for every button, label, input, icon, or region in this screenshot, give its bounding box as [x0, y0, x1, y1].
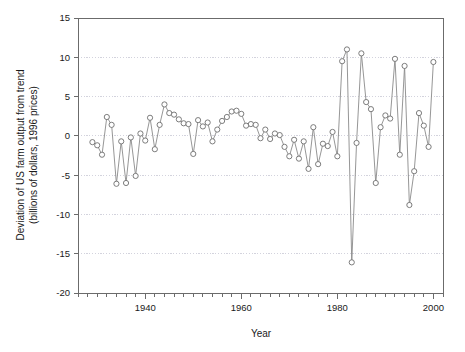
data-series — [90, 47, 436, 265]
data-point-1962 — [248, 121, 253, 126]
data-point-1985 — [359, 51, 364, 56]
data-point-1955 — [215, 127, 220, 132]
data-point-1990 — [383, 113, 388, 118]
data-point-1983 — [349, 260, 354, 265]
data-point-1957 — [224, 114, 229, 119]
data-point-1979 — [330, 129, 335, 134]
x-axis-ticks — [78, 293, 443, 299]
x-tick-label-1980: 1980 — [327, 302, 348, 313]
series-line — [92, 49, 433, 262]
y-tick-label--10: -10 — [56, 209, 70, 220]
y-tick-label-10: 10 — [59, 52, 70, 63]
data-point-1980 — [335, 154, 340, 159]
data-point-1972 — [296, 156, 301, 161]
data-point-1993 — [397, 152, 402, 157]
data-point-1997 — [416, 110, 421, 115]
data-point-1952 — [200, 124, 205, 129]
data-point-1929 — [90, 140, 95, 145]
data-point-1937 — [128, 135, 133, 140]
data-point-1951 — [195, 118, 200, 123]
data-point-1956 — [219, 118, 224, 123]
data-point-1988 — [373, 180, 378, 185]
data-point-1950 — [191, 151, 196, 156]
x-axis-tick-labels: 1940196019802000 — [135, 302, 444, 313]
data-point-1971 — [292, 137, 297, 142]
y-axis-tick-labels: 151050-5-10-15-20 — [56, 12, 70, 298]
data-point-1978 — [325, 143, 330, 148]
data-point-1941 — [147, 115, 152, 120]
y-tick-label-15: 15 — [59, 12, 70, 23]
y-axis-title-line2: (billions of dollars, 1996 prices) — [28, 86, 39, 224]
farm-output-deviation-chart: 151050-5-10-15-20 1940196019802000 Year … — [0, 0, 465, 352]
data-point-1948 — [181, 121, 186, 126]
data-point-1970 — [287, 154, 292, 159]
data-point-1936 — [123, 180, 128, 185]
series-markers — [90, 47, 436, 265]
y-tick-label-0: 0 — [65, 130, 70, 141]
data-point-1995 — [407, 202, 412, 207]
x-axis-title: Year — [251, 328, 272, 339]
data-point-1933 — [109, 122, 114, 127]
data-point-1986 — [364, 99, 369, 104]
data-point-1930 — [95, 143, 100, 148]
y-axis-title-line1: Deviation of US farm output from trend — [15, 69, 26, 240]
data-point-1943 — [157, 122, 162, 127]
data-point-1931 — [99, 152, 104, 157]
data-point-1975 — [311, 125, 316, 130]
data-point-1960 — [239, 111, 244, 116]
y-axis-ticks — [74, 18, 78, 293]
data-point-1949 — [186, 121, 191, 126]
data-point-1939 — [138, 131, 143, 136]
x-tick-label-2000: 2000 — [423, 302, 444, 313]
data-point-1958 — [229, 109, 234, 114]
data-point-1991 — [388, 116, 393, 121]
data-point-1932 — [104, 114, 109, 119]
data-point-1964 — [258, 136, 263, 141]
data-point-1935 — [119, 139, 124, 144]
chart-container: 151050-5-10-15-20 1940196019802000 Year … — [0, 0, 465, 352]
y-tick-label--5: -5 — [62, 170, 70, 181]
data-point-1973 — [301, 139, 306, 144]
data-point-1987 — [368, 107, 373, 112]
data-point-1965 — [263, 127, 268, 132]
data-point-1934 — [114, 181, 119, 186]
data-point-1953 — [205, 120, 210, 125]
data-point-1992 — [392, 56, 397, 61]
data-point-1946 — [171, 112, 176, 117]
data-point-1966 — [268, 136, 273, 141]
data-point-1959 — [234, 108, 239, 113]
data-point-1998 — [421, 123, 426, 128]
data-point-1968 — [277, 132, 282, 137]
data-point-1976 — [316, 162, 321, 167]
data-point-1994 — [402, 63, 407, 68]
data-point-1963 — [253, 122, 258, 127]
data-point-1969 — [282, 144, 287, 149]
data-point-1989 — [378, 125, 383, 130]
data-point-1954 — [210, 139, 215, 144]
data-point-1938 — [133, 173, 138, 178]
y-tick-label--20: -20 — [56, 287, 70, 298]
data-point-1947 — [176, 117, 181, 122]
data-point-1984 — [354, 140, 359, 145]
data-point-1982 — [344, 47, 349, 52]
data-point-1940 — [143, 138, 148, 143]
x-tick-label-1960: 1960 — [231, 302, 252, 313]
data-point-2000 — [431, 59, 436, 64]
y-tick-label--15: -15 — [56, 248, 70, 259]
data-point-1999 — [426, 144, 431, 149]
data-point-1981 — [340, 59, 345, 64]
data-point-1944 — [162, 102, 167, 107]
y-tick-label-5: 5 — [65, 91, 70, 102]
data-point-1996 — [412, 169, 417, 174]
data-point-1974 — [306, 166, 311, 171]
x-tick-label-1940: 1940 — [135, 302, 156, 313]
data-point-1942 — [152, 147, 157, 152]
